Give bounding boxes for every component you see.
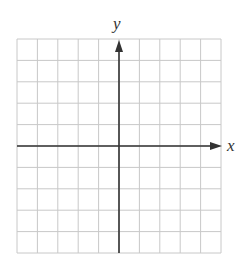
y-axis-label: y xyxy=(111,14,121,33)
axes xyxy=(17,40,222,253)
x-axis-label: x xyxy=(226,136,235,155)
coordinate-plane: x y xyxy=(0,0,245,272)
y-axis-arrow-icon xyxy=(115,40,123,52)
x-axis-arrow-icon xyxy=(210,142,222,150)
